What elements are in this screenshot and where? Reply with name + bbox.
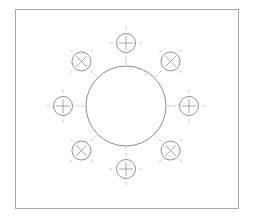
bolt-hole xyxy=(159,139,182,162)
centerline-tick xyxy=(180,50,182,52)
centerline-tick xyxy=(91,50,93,52)
bolt-hole xyxy=(109,26,142,59)
bore-tick xyxy=(95,75,97,77)
bore-tick xyxy=(155,135,157,137)
centerline-tick xyxy=(70,139,72,141)
bolt-hole xyxy=(70,50,93,73)
bore-tick xyxy=(155,75,157,77)
centerline-tick xyxy=(180,139,182,141)
centerline-tick xyxy=(180,71,182,73)
centerline-tick xyxy=(159,50,161,52)
central-bore xyxy=(86,66,166,146)
centerline-tick xyxy=(159,139,161,141)
centerline-tick xyxy=(70,160,72,162)
bolt-holes xyxy=(46,26,205,185)
centerline-tick xyxy=(159,71,161,73)
bolt-hole xyxy=(172,89,205,122)
bore-tick xyxy=(95,135,97,137)
centerline-tick xyxy=(91,160,93,162)
centerline-tick xyxy=(70,50,72,52)
centerline-tick xyxy=(180,160,182,162)
centerline-tick xyxy=(91,71,93,73)
bolt-hole xyxy=(70,139,93,162)
bolt-hole xyxy=(46,89,79,122)
centerline-tick xyxy=(91,139,93,141)
bolt-hole xyxy=(159,50,182,73)
bolt-hole xyxy=(109,152,142,185)
flange-drawing xyxy=(0,0,254,216)
centerline-tick xyxy=(159,160,161,162)
centerline-tick xyxy=(70,71,72,73)
